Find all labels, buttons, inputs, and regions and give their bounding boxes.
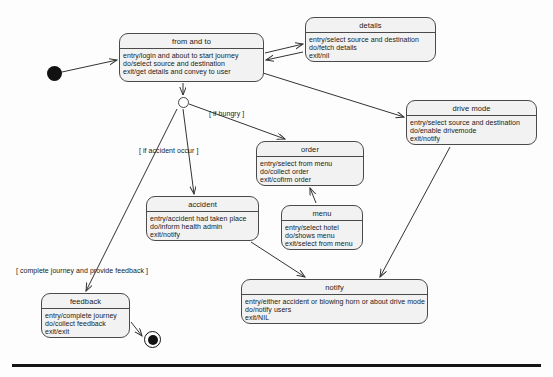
edge-initial-to-from-and-to [62, 60, 117, 72]
state-body: entry/select source and destination do/f… [306, 33, 435, 64]
edge-from-and-to-to-drive-mode [263, 73, 404, 117]
state-title: drive mode [407, 101, 536, 115]
state-order[interactable]: order entry/select from menu do/collect … [256, 141, 364, 186]
state-entry-line: entry/select source and destination [410, 119, 533, 127]
state-exit-line: exit/notify [150, 231, 255, 239]
guard-label-if-hungry: [ if hungry ] [209, 110, 244, 117]
edge-menu-to-order [310, 188, 316, 203]
state-entry-line: entry/accident had taken place [150, 215, 255, 223]
diagram-canvas: from and to entry/login and about to sta… [0, 0, 553, 377]
state-exit-line: exit/get details and convey to user [123, 68, 260, 76]
state-title: menu [282, 206, 362, 220]
state-do-line: do/enable drivemode [410, 127, 533, 135]
state-body: entry/select hotel do/shows menu exit/se… [282, 221, 362, 252]
state-entry-line: entry/login and about to start journey [123, 52, 260, 60]
final-state-inner [148, 335, 158, 345]
edge-from-and-to-to-details [265, 44, 303, 53]
final-state-node[interactable] [144, 331, 161, 348]
state-do-line: do/fetch details [309, 44, 432, 52]
state-body: entry/either accident or blowing horn or… [242, 295, 427, 326]
state-title: notify [242, 280, 427, 294]
state-accident[interactable]: accident entry/accident had taken place … [146, 196, 259, 241]
state-title: accident [147, 197, 258, 211]
guard-label-if-accident-occur: [ if accident occur ] [139, 147, 198, 154]
state-exit-line: exit/nil [309, 52, 432, 60]
state-exit-line: exit/notify [410, 135, 533, 143]
state-do-line: do/notify users [245, 306, 424, 314]
page-divider-rule [12, 364, 541, 367]
state-body: entry/select from menu do/collect order … [257, 157, 363, 188]
state-body: entry/select source and destination do/e… [407, 116, 536, 147]
edge-drive-mode-to-notify [380, 147, 450, 277]
state-do-line: do/shows menu [285, 232, 359, 240]
state-exit-line: exit/cofirm order [260, 176, 360, 184]
state-entry-line: entry/select hotel [285, 224, 359, 232]
state-do-line: do/inform health admin [150, 223, 255, 231]
state-title: order [257, 142, 363, 156]
state-entry-line: entry/select source and destination [309, 36, 432, 44]
state-feedback[interactable]: feedback entry/complete journey do/colle… [41, 293, 130, 338]
state-menu[interactable]: menu entry/select hotel do/shows menu ex… [281, 205, 363, 250]
state-from-and-to[interactable]: from and to entry/login and about to sta… [119, 33, 264, 82]
state-notify[interactable]: notify entry/either accident or blowing … [241, 279, 428, 324]
state-do-line: do/select source and destination [123, 60, 260, 68]
state-entry-line: entry/complete journey [45, 312, 126, 320]
state-body: entry/complete journey do/collect feedba… [42, 309, 129, 340]
edge-feedback-to-final [131, 322, 142, 336]
state-details[interactable]: details entry/select source and destinat… [305, 17, 436, 62]
state-do-line: do/collect order [260, 168, 360, 176]
state-title: feedback [42, 294, 129, 308]
state-title: from and to [120, 34, 263, 48]
state-body: entry/login and about to start journey d… [120, 49, 263, 80]
state-do-line: do/collect feedback [45, 320, 126, 328]
state-entry-line: entry/select from menu [260, 160, 360, 168]
state-title: details [306, 18, 435, 32]
state-exit-line: exit/NIL [245, 314, 424, 322]
state-body: entry/accident had taken place do/inform… [147, 212, 258, 243]
initial-state-node[interactable] [47, 66, 62, 81]
guard-label-complete-journey: [ complete journey and provide feedback … [16, 267, 148, 274]
state-drive-mode[interactable]: drive mode entry/select source and desti… [406, 100, 537, 145]
junction-node[interactable] [178, 97, 189, 108]
edge-details-to-from-and-to [266, 52, 303, 60]
state-entry-line: entry/either accident or blowing horn or… [245, 298, 424, 306]
state-exit-line: exit/select from menu [285, 240, 359, 248]
state-exit-line: exit/exit [45, 328, 126, 336]
